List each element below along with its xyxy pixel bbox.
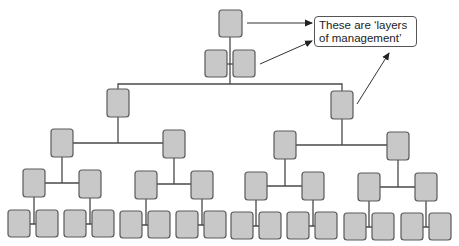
org-node-l6l: [315, 212, 337, 239]
layers-of-management-callout: These are ‘layers of management’: [314, 16, 417, 47]
org-node-l3b: [331, 91, 353, 119]
org-node-l2a: [205, 50, 227, 77]
org-node-l5h: [415, 173, 437, 201]
org-node-l6g: [176, 211, 198, 238]
org-node-l5d: [191, 171, 213, 199]
org-node-l5c: [135, 171, 157, 199]
org-node-l6m: [344, 213, 366, 240]
org-node-l6h: [204, 211, 226, 238]
org-node-l5f: [302, 172, 324, 200]
org-node-l6d: [92, 210, 114, 237]
org-node-l5g: [358, 173, 380, 201]
org-node-l6b: [36, 210, 58, 237]
org-node-l6n: [372, 213, 394, 240]
org-node-l6a: [8, 210, 30, 237]
callout-text: These are ‘layers of management’: [319, 19, 407, 44]
org-node-l6i: [231, 212, 253, 239]
org-node-l4b: [163, 130, 185, 158]
org-node-l5e: [245, 172, 267, 200]
org-node-l6j: [259, 212, 281, 239]
org-node-l5b: [79, 170, 101, 198]
org-node-l3a: [107, 89, 129, 117]
org-node-l6f: [148, 211, 170, 238]
org-node-l6k: [287, 212, 309, 239]
org-node-l6e: [120, 211, 142, 238]
org-node-l4c: [274, 131, 296, 159]
org-node-l6c: [64, 210, 86, 237]
org-node-l6p: [429, 213, 451, 240]
org-node-l4a: [51, 129, 73, 157]
org-node-l5a: [23, 169, 45, 197]
org-node-l2b: [233, 50, 255, 77]
org-node-l4d: [387, 132, 409, 160]
org-node-top: [219, 10, 242, 37]
org-node-l6o: [401, 213, 423, 240]
